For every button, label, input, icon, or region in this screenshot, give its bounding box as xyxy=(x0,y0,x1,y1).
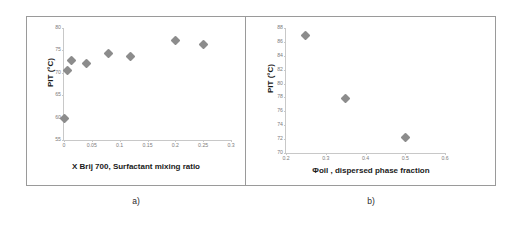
plot-area-b: 707274767880828486880.20.30.40.50.6 xyxy=(285,28,445,154)
data-point xyxy=(63,66,73,76)
y-tick-label: 82 xyxy=(277,67,286,72)
x-tick-label: 0.6 xyxy=(441,153,448,161)
x-tick-label: 0 xyxy=(63,140,66,148)
data-point xyxy=(126,52,136,62)
x-tick-label: 0.05 xyxy=(87,140,97,148)
x-axis-label-a: X Brij 700, Surfactant mixing ratio xyxy=(26,162,246,171)
x-tick-label: 0.2 xyxy=(282,153,289,161)
y-tick-label: 84 xyxy=(277,53,286,58)
y-tick-label: 65 xyxy=(55,93,64,98)
x-tick-label: 0.25 xyxy=(198,140,208,148)
chart-panel-a: 55606570758000.050.10.150.20.250.3 PIT (… xyxy=(26,16,246,186)
chart-panel-b: 707274767880828486880.20.30.40.50.6 PIT … xyxy=(246,16,496,186)
data-point xyxy=(341,93,351,103)
data-point xyxy=(81,59,91,69)
panel-caption-b: b) xyxy=(246,196,496,206)
data-point xyxy=(198,40,208,50)
y-tick-label: 80 xyxy=(55,25,64,30)
data-point xyxy=(400,133,410,143)
figure-two-scatter-panels: 55606570758000.050.10.150.20.250.3 PIT (… xyxy=(0,0,524,225)
plot-area-a: 55606570758000.050.10.150.20.250.3 xyxy=(63,28,231,141)
x-tick-label: 0.1 xyxy=(116,140,123,148)
y-tick-label: 86 xyxy=(277,39,286,44)
x-tick-label: 0.5 xyxy=(402,153,409,161)
y-tick-label: 75 xyxy=(55,48,64,53)
x-tick-label: 0.4 xyxy=(362,153,369,161)
y-axis-label-b: PIT (°C) xyxy=(266,49,275,109)
y-tick-label: 76 xyxy=(277,109,286,114)
panel-caption-a: a) xyxy=(26,196,246,206)
y-tick-label: 88 xyxy=(277,25,286,30)
data-point xyxy=(104,48,114,58)
x-tick-label: 0.3 xyxy=(322,153,329,161)
y-tick-label: 78 xyxy=(277,95,286,100)
x-tick-label: 0.15 xyxy=(142,140,152,148)
y-tick-label: 80 xyxy=(277,81,286,86)
data-point xyxy=(301,31,311,41)
x-axis-label-b: Φoil , dispersed phase fraction xyxy=(246,166,496,175)
data-point xyxy=(170,36,180,46)
y-axis-label-a: PIT (°C) xyxy=(46,43,55,103)
y-tick-label: 74 xyxy=(277,123,286,128)
x-tick-label: 0.3 xyxy=(227,140,234,148)
y-tick-label: 72 xyxy=(277,137,286,142)
x-tick-label: 0.2 xyxy=(172,140,179,148)
data-point xyxy=(66,56,76,66)
